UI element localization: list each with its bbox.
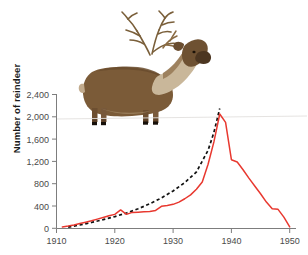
- y-tick-2000: 2,000: [26, 112, 49, 122]
- y-tick-0: 0: [44, 224, 49, 234]
- y-tick-400: 400: [34, 202, 49, 212]
- x-tick-1930: 1930: [163, 236, 183, 246]
- y-axis-label: Number of reindeer: [11, 49, 22, 169]
- series-exponential-growth-model: [68, 108, 220, 227]
- series-observed-population: [62, 114, 289, 227]
- y-tick-labels: 2,400 2,000 1,600 1,200 800 400 0: [26, 90, 49, 234]
- reindeer-illustration: [79, 11, 211, 125]
- axes: [52, 94, 296, 233]
- x-tick-labels: 1910 1920 1930 1940 1950: [46, 236, 299, 246]
- x-tick-1910: 1910: [46, 236, 66, 246]
- y-tick-1200: 1,200: [26, 157, 49, 167]
- x-tick-1920: 1920: [105, 236, 125, 246]
- x-tick-1950: 1950: [280, 236, 300, 246]
- y-tick-1600: 1,600: [26, 135, 49, 145]
- y-tick-2400: 2,400: [26, 90, 49, 100]
- x-tick-1940: 1940: [221, 236, 241, 246]
- chart-canvas: 2,400 2,000 1,600 1,200 800 400 0 1910 1…: [0, 0, 308, 255]
- y-tick-800: 800: [34, 179, 49, 189]
- reindeer-population-figure: 2,400 2,000 1,600 1,200 800 400 0 1910 1…: [0, 0, 308, 255]
